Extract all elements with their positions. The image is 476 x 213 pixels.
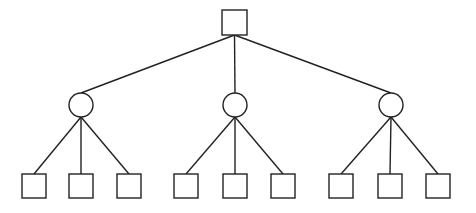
circle-node-1 [69, 93, 93, 117]
leaf-node-square-1-1 [22, 174, 46, 198]
leaf-node-square-2-3 [271, 174, 295, 198]
leaf-node-square-1-3 [117, 174, 141, 198]
leaf-node-square-2-1 [174, 174, 198, 198]
edge-circle-to-leaf [390, 117, 391, 174]
edge-circle-to-leaf [235, 117, 283, 174]
edge-circle-to-leaf [186, 117, 235, 174]
tree-diagram [0, 0, 476, 213]
tree-nodes [22, 10, 450, 198]
leaf-node-square-2-2 [223, 174, 247, 198]
circle-node-2 [223, 93, 247, 117]
edge-root-to-circle [81, 35, 235, 93]
edge-root-to-circle [235, 35, 236, 93]
leaf-node-square-1-2 [69, 174, 93, 198]
leaf-node-square-3-1 [329, 174, 353, 198]
edge-circle-to-leaf [341, 117, 391, 174]
edge-circle-to-leaf [391, 117, 438, 174]
edge-circle-to-leaf [34, 117, 81, 174]
edge-circle-to-leaf [81, 117, 129, 174]
circle-node-3 [379, 93, 403, 117]
root-node-square [222, 10, 247, 35]
leaf-node-square-3-2 [378, 174, 402, 198]
edge-root-to-circle [235, 35, 392, 93]
leaf-node-square-3-3 [426, 174, 450, 198]
